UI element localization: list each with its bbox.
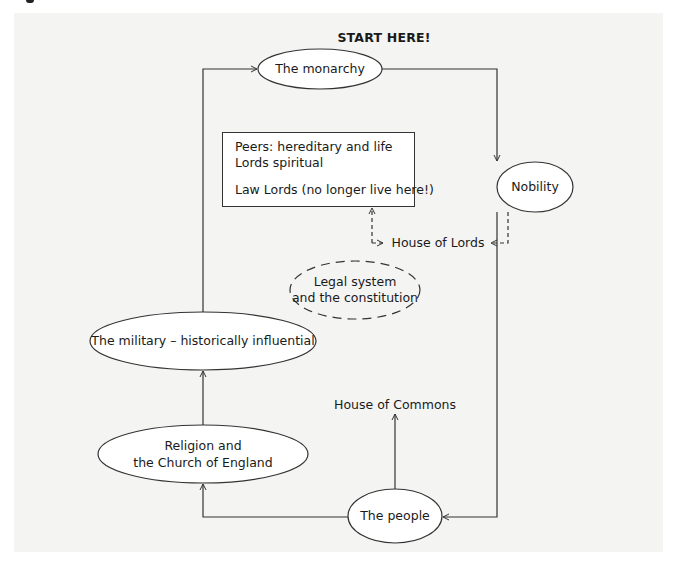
house-of-commons-label: House of Commons	[334, 397, 456, 413]
arrow-people-to-religion	[203, 484, 348, 517]
node-religion-line1: Religion and	[164, 438, 241, 454]
node-legal-line1: Legal system	[314, 274, 397, 290]
lords-box-line3: Law Lords (no longer live here!)	[235, 182, 414, 198]
node-religion-line2: the Church of England	[133, 455, 272, 471]
lords-box-line2: Lords spiritual	[235, 155, 414, 171]
arrow-nobility-to-lords	[491, 212, 508, 243]
lords-box-spacer	[235, 171, 414, 182]
node-nobility: Nobility	[511, 179, 559, 195]
start-here-title: START HERE!	[337, 30, 430, 45]
lords-box-line1: Peers: hereditary and life	[235, 139, 414, 155]
node-monarchy: The monarchy	[275, 61, 365, 77]
arrow-nobility-to-people	[443, 212, 497, 517]
node-religion-shape	[98, 425, 308, 483]
lords-members-box: Peers: hereditary and life Lords spiritu…	[222, 132, 415, 207]
node-military: The military – historically influential	[91, 333, 314, 349]
node-people: The people	[360, 508, 430, 524]
node-legal-line2: and the constitution	[292, 290, 418, 306]
house-of-lords-label: House of Lords	[392, 235, 485, 251]
